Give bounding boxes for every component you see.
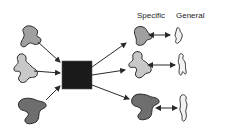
specific-shape-1	[134, 27, 152, 46]
specific-shape-2	[129, 52, 151, 78]
arrow-output-3	[92, 85, 129, 99]
arrow-input-3	[46, 86, 60, 100]
input-shape-2	[14, 54, 37, 83]
arrow-input-1	[38, 42, 60, 62]
general-shape-2	[178, 54, 186, 75]
general-shape-3	[180, 95, 187, 121]
input-shape-3	[18, 98, 46, 124]
general-shape-1	[175, 28, 182, 44]
diagram: Specific General	[0, 0, 225, 135]
arrow-output-1	[92, 43, 126, 67]
diagram-canvas	[0, 0, 225, 135]
specific-column-label: Specific	[137, 11, 165, 20]
arrow-output-2	[92, 70, 125, 75]
input-shape-1	[21, 26, 41, 47]
black-box	[62, 61, 92, 89]
specific-shape-3	[132, 94, 160, 120]
general-column-label: General	[176, 11, 204, 20]
